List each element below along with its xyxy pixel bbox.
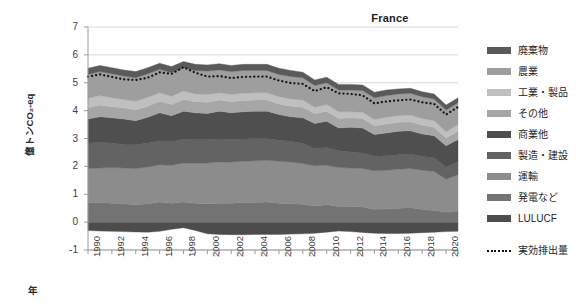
y-tick-label: 0	[52, 217, 78, 227]
x-tick-label: 1990	[92, 236, 102, 257]
y-tick-label: 5	[52, 78, 78, 88]
x-tick-label: 2000	[211, 236, 221, 257]
legend-item[interactable]: 農業	[487, 61, 581, 82]
legend-item-label: 製造・建設	[518, 150, 568, 161]
y-tick-label: 6	[52, 50, 78, 60]
legend-item-label: 工業・製品	[518, 87, 568, 98]
x-tick-label: 2008	[307, 236, 317, 257]
x-axis-title: 年	[28, 283, 38, 297]
legend-item[interactable]: 工業・製品	[487, 82, 581, 103]
x-tick-label: 1998	[187, 236, 197, 257]
legend-swatch-icon	[487, 68, 511, 75]
legend: 廃棄物農業工業・製品その他商業他製造・建設運輸発電などLULUCF	[487, 40, 581, 229]
legend-net-label: 実効排出量	[518, 245, 568, 256]
y-tick-label: 2	[52, 161, 78, 171]
y-tick-label: 3	[52, 134, 78, 144]
legend-item[interactable]: 運輸	[487, 166, 581, 187]
legend-swatch-icon	[487, 152, 511, 159]
legend-item-label: 商業他	[518, 129, 548, 140]
legend-item[interactable]: 発電など	[487, 187, 581, 208]
x-tick-label: 2020	[450, 236, 460, 257]
dotted-line-icon	[487, 247, 511, 254]
x-tick-label: 1992	[116, 236, 126, 257]
legend-item-label: 廃棄物	[518, 45, 548, 56]
legend-item[interactable]: 廃棄物	[487, 40, 581, 61]
y-axis-title: 億トンCO₂-eq	[22, 80, 36, 170]
x-tick-label: 2006	[283, 236, 293, 257]
legend-item[interactable]: 商業他	[487, 124, 581, 145]
legend-item-label: 発電など	[518, 192, 558, 203]
x-tick-label: 2002	[235, 236, 245, 257]
x-tick-label: 2014	[378, 236, 388, 257]
x-tick-label: 1996	[164, 236, 174, 257]
x-tick-label: 1994	[140, 236, 150, 257]
y-tick-label: -1	[52, 245, 78, 255]
legend-swatch-icon	[487, 173, 511, 180]
legend-item[interactable]: 製造・建設	[487, 145, 581, 166]
legend-item-label: 運輸	[518, 171, 538, 182]
legend-swatch-icon	[487, 47, 511, 54]
x-tick-label: 2010	[331, 236, 341, 257]
x-tick-label: 2004	[259, 236, 269, 257]
y-tick-label: 1	[52, 189, 78, 199]
legend-net-emissions: 実効排出量	[487, 245, 581, 256]
chart-canvas	[0, 0, 470, 308]
plot-area: 億トンCO₂-eq 年 76543210-1199019921994199619…	[0, 0, 470, 308]
x-tick-label: 2012	[355, 236, 365, 257]
legend-swatch-icon	[487, 89, 511, 96]
x-tick-label: 2016	[402, 236, 412, 257]
legend-item[interactable]: LULUCF	[487, 208, 581, 229]
legend-swatch-icon	[487, 215, 511, 222]
legend-swatch-icon	[487, 131, 511, 138]
legend-swatch-icon	[487, 110, 511, 117]
y-tick-label: 4	[52, 106, 78, 116]
legend-item[interactable]: その他	[487, 103, 581, 124]
chart-root: France 億トンCO₂-eq 年 76543210-119901992199…	[0, 0, 581, 308]
legend-item-label: LULUCF	[518, 213, 557, 224]
legend-item-label: その他	[518, 108, 548, 119]
y-tick-label: 7	[52, 22, 78, 32]
x-tick-label: 2018	[426, 236, 436, 257]
legend-item-label: 農業	[518, 66, 538, 77]
legend-swatch-icon	[487, 194, 511, 201]
